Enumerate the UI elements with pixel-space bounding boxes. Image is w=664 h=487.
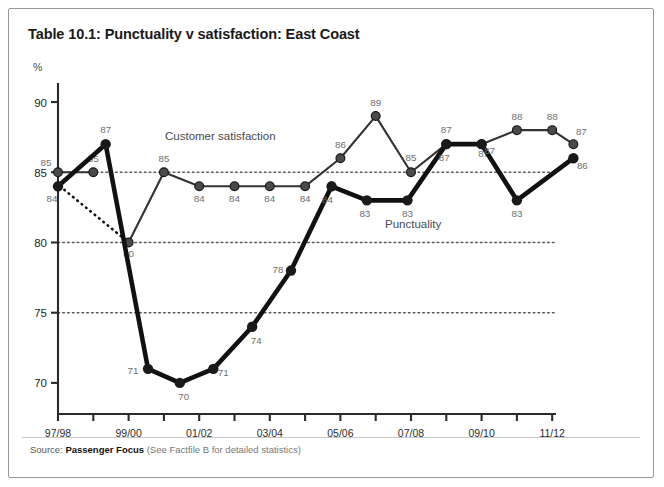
satisfaction-point-5 (230, 182, 239, 191)
punctuality-value-label-0: 84 (47, 193, 58, 204)
punctuality-point-3 (175, 378, 185, 388)
satisfaction-point-13 (513, 126, 522, 135)
punctuality-value-label-10: 87 (439, 152, 450, 163)
punctuality-point-6 (286, 265, 296, 275)
y-tick-label-85: 85 (34, 167, 47, 179)
satisfaction-value-label-11: 87 (441, 124, 452, 135)
satisfaction-point-8 (336, 154, 345, 163)
satisfaction-value-label-5: 84 (229, 193, 240, 204)
satisfaction-point-3 (160, 168, 169, 177)
satisfaction-value-label-8: 86 (335, 139, 346, 150)
satisfaction-point-10 (407, 168, 416, 177)
satisfaction-value-label-6: 84 (264, 193, 275, 204)
satisfaction-value-label-13: 88 (511, 111, 522, 122)
satisfaction-point-15 (569, 140, 578, 149)
y-tick-label-75: 75 (34, 307, 47, 319)
satisfaction-value-label-15: 87 (576, 126, 587, 137)
satisfaction-point-0 (54, 168, 63, 177)
satisfaction-point-4 (195, 182, 204, 191)
satisfaction-value-label-7: 84 (300, 193, 311, 204)
satisfaction-value-label-9: 89 (370, 97, 381, 108)
source-publisher: Passenger Focus (65, 444, 144, 455)
punctuality-point-5 (247, 322, 257, 332)
y-tick-label-70: 70 (34, 377, 47, 389)
footer-divider (22, 437, 640, 438)
punctuality-value-label-2: 71 (128, 365, 139, 376)
punctuality-point-1 (100, 139, 110, 149)
y-tick-label-80: 80 (34, 237, 47, 249)
source-note: Source: Passenger Focus (See Factfile B … (30, 444, 301, 455)
punctuality-value-label-7: 84 (322, 194, 333, 205)
punctuality-point-8 (362, 195, 372, 205)
satisfaction-point-9 (371, 112, 380, 121)
satisfaction-value-label-10: 85 (406, 152, 417, 163)
punctuality-value-label-5: 74 (251, 335, 262, 346)
series-annotation-1: Punctuality (385, 218, 442, 230)
punctuality-point-7 (326, 181, 336, 191)
punctuality-line (58, 144, 573, 383)
punctuality-value-label-13: 86 (577, 160, 588, 171)
source-prefix: Source: (30, 444, 63, 455)
satisfaction-value-label-4: 84 (194, 193, 205, 204)
source-detail: (See Factfile B for detailed statistics) (147, 444, 301, 455)
punctuality-value-label-4: 71 (218, 367, 229, 378)
punctuality-value-label-12: 83 (511, 208, 522, 219)
satisfaction-value-label-3: 85 (158, 153, 169, 164)
y-tick-label-90: 90 (34, 97, 47, 109)
punctuality-point-2 (143, 364, 153, 374)
satisfaction-point-14 (548, 126, 557, 135)
satisfaction-point-7 (301, 182, 310, 191)
punctuality-point-9 (402, 195, 412, 205)
chart-page: Table 10.1: Punctuality v satisfaction: … (0, 0, 664, 487)
punctuality-value-label-8: 83 (359, 208, 370, 219)
punctuality-value-label-6: 78 (273, 264, 284, 275)
punctuality-value-label-1: 87 (100, 124, 111, 135)
punctuality-value-label-3: 70 (178, 391, 189, 402)
satisfaction-value-label-0: 85 (41, 157, 52, 168)
satisfaction-value-label-14: 88 (547, 111, 558, 122)
series-annotation-0: Customer satisfaction (165, 130, 276, 142)
chart-canvas: 707580859097/9899/0001/0203/0405/0607/08… (0, 0, 664, 487)
punctuality-value-label-11: 87 (484, 145, 495, 156)
satisfaction-point-1 (89, 168, 98, 177)
punctuality-point-10 (441, 139, 451, 149)
punctuality-point-0 (53, 181, 63, 191)
satisfaction-point-6 (265, 182, 274, 191)
punctuality-point-12 (512, 195, 522, 205)
